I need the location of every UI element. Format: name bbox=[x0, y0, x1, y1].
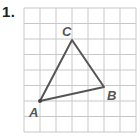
vertex-label-a: A bbox=[28, 105, 38, 120]
point-a-marker bbox=[38, 99, 42, 103]
vertex-label-c: C bbox=[62, 24, 72, 39]
coordinate-grid bbox=[24, 8, 136, 132]
triangle-diagram: A B C bbox=[0, 0, 140, 137]
vertex-label-b: B bbox=[107, 88, 116, 103]
